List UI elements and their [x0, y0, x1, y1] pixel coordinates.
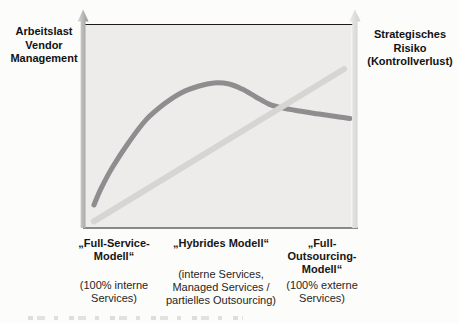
y-axis-label-workload: Arbeitslast Vendor Management [2, 25, 86, 66]
outsourcing-models-figure: Arbeitslast Vendor Management Strategisc… [0, 0, 458, 323]
y-axis-label-risk: Strategisches Risiko (Kontrollverlust) [362, 28, 458, 69]
plot-area [86, 25, 352, 228]
category-full-outsourcing-title: „Full- Outsourcing- Modell“ [272, 237, 372, 276]
category-full-outsourcing-subtitle: (100% externe Services) [272, 279, 372, 305]
cropped-caption-fragment [28, 316, 243, 320]
